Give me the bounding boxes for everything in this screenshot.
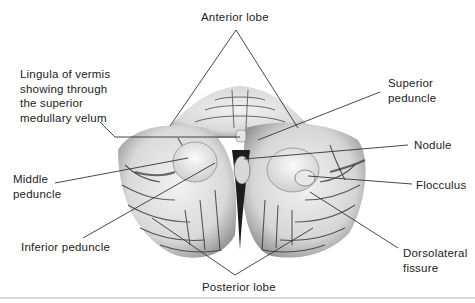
bottom-divider xyxy=(0,297,475,299)
label-nodule: Nodule xyxy=(414,138,452,153)
label-middle-peduncle: Middle peduncle xyxy=(13,172,61,201)
label-dorsolateral-fissure: Dorsolateral fissure xyxy=(403,246,467,275)
label-lingula-line-2: showing through xyxy=(20,82,110,97)
label-middle-peduncle-line-2: peduncle xyxy=(13,187,61,202)
label-dorsolateral-fissure-line-1: Dorsolateral xyxy=(403,246,467,261)
label-superior-peduncle-line-1: Superior xyxy=(388,76,436,91)
label-dorsolateral-fissure-line-2: fissure xyxy=(403,261,467,276)
figure-canvas: Anterior lobe Lingula of vermis showing … xyxy=(0,0,475,303)
label-lingula: Lingula of vermis showing through the su… xyxy=(20,67,110,125)
label-superior-peduncle-line-2: peduncle xyxy=(388,91,436,106)
label-inferior-peduncle: Inferior peduncle xyxy=(21,240,110,255)
label-posterior-lobe: Posterior lobe xyxy=(202,280,276,295)
label-superior-peduncle: Superior peduncle xyxy=(388,76,436,105)
label-middle-peduncle-line-1: Middle xyxy=(13,172,61,187)
label-lingula-line-1: Lingula of vermis xyxy=(20,67,110,82)
label-flocculus: Flocculus xyxy=(416,178,466,193)
label-lingula-line-4: medullary velum xyxy=(20,111,110,126)
specimen xyxy=(118,86,366,258)
label-lingula-line-3: the superior xyxy=(20,96,110,111)
label-anterior-lobe: Anterior lobe xyxy=(201,10,269,25)
